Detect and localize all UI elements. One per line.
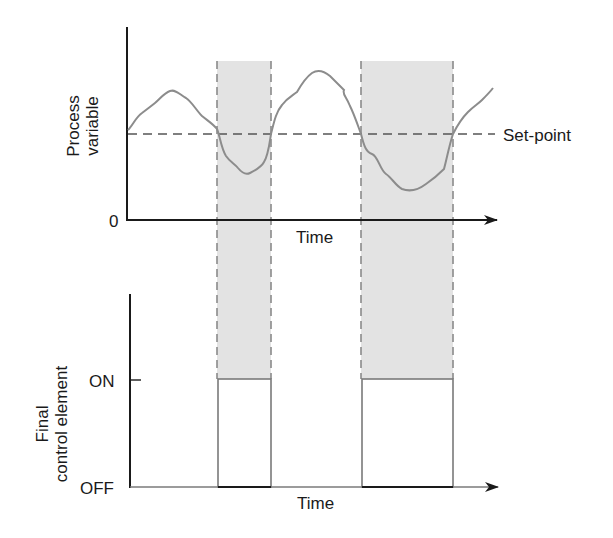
final-control-element-label-line1: Final (33, 349, 52, 499)
process-variable-label: Process variable (64, 76, 102, 176)
process-variable-label-line2: variable (83, 76, 102, 176)
origin-zero-label: 0 (109, 213, 118, 230)
top-time-axis-label: Time (296, 229, 333, 246)
bottom-time-axis-label: Time (297, 495, 334, 512)
process-variable-label-line1: Process (64, 76, 83, 176)
on-pulse-2 (362, 379, 453, 487)
on-level-label: ON (89, 373, 115, 390)
setpoint-label: Set-point (503, 127, 571, 144)
final-control-element-label: Final control element (33, 349, 71, 499)
final-control-element-label-line2: control element (52, 349, 71, 499)
off-level-label: OFF (80, 480, 114, 497)
on-pulse-1 (218, 379, 271, 487)
